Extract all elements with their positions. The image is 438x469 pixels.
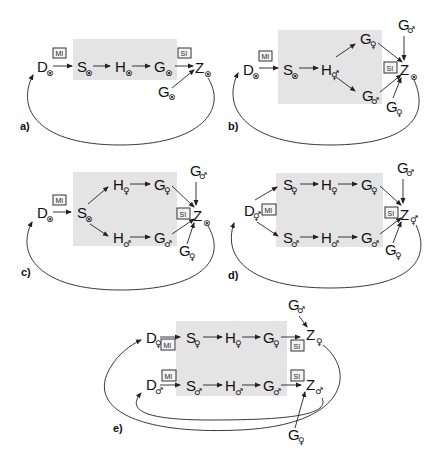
node-s-female-symbol: ♀ — [194, 339, 201, 349]
node-h-symbol: ⊗ — [125, 68, 133, 78]
node-s-female-symbol: ♀ — [291, 186, 298, 196]
node-d-male-symbol: ♂ — [155, 386, 163, 396]
syngamy-tag-label: SI — [387, 65, 394, 72]
node-z-symbol: ⊗ — [203, 218, 211, 228]
node-z-male: Z — [306, 376, 315, 393]
node-z: Z — [400, 61, 409, 78]
panel-b: D ⊗ MI S ⊗ H ⚥ G ♀ G ♂ SI Z ⊗ G ♂ G ♀ b) — [228, 16, 419, 145]
edge-d-sm — [257, 222, 278, 236]
syngamy-tag-label: SI — [388, 210, 395, 217]
panel-d: D ⚥ MI S ♀ H ♀ G ♀ S ♂ H ♂ G ♂ SI Z ⚥ G … — [228, 159, 421, 288]
node-g-external-male-symbol: ♂ — [406, 168, 414, 178]
node-z-symbol: ⊗ — [204, 69, 212, 79]
syngamy-tag-female-label: SI — [294, 343, 301, 350]
node-s-symbol: ⊗ — [85, 214, 93, 224]
node-z-symbol: ⚥ — [410, 215, 418, 226]
node-d-symbol: ⚥ — [253, 211, 261, 222]
meiosis-tag-male-label: MI — [165, 373, 173, 380]
node-h-female-symbol: ♀ — [235, 339, 242, 349]
node-g-external-male-symbol: ♂ — [199, 171, 207, 181]
node-h-symbol: ⚥ — [331, 70, 339, 81]
node-g-male-symbol: ♂ — [371, 96, 379, 106]
node-d-symbol: ⊗ — [252, 71, 260, 81]
node-g-external-male-symbol: ♂ — [407, 25, 415, 35]
panel-e: D ♀ MI S ♀ H ♀ G ♀ SI Z ♀ G ♂ D ♂ MI S ♂… — [104, 296, 340, 446]
meiosis-tag-label: MI — [56, 197, 64, 204]
meiosis-tag-label: MI — [56, 50, 64, 57]
cycle-arrow-male — [136, 393, 323, 420]
edge-gm-z — [380, 218, 401, 234]
node-g-external-male-symbol: ♂ — [297, 305, 305, 315]
panel-label-b: b) — [228, 120, 239, 132]
node-h-female-symbol: ♀ — [331, 186, 338, 196]
node-z: Z — [400, 206, 409, 223]
node-g-female-symbol: ♀ — [273, 339, 280, 349]
node-s-male-symbol: ♂ — [194, 387, 202, 397]
node-g: G — [154, 58, 166, 75]
node-z: Z — [195, 59, 204, 76]
life-cycle-diagram: D ⊗ MI S ⊗ H ⊗ G ⊗ SI Z ⊗ G ⊗ a) D ⊗ MI … — [0, 0, 438, 469]
edge-gextf-zm — [295, 392, 305, 428]
edge-d-sf — [255, 187, 277, 200]
node-g-male-symbol: ♂ — [371, 239, 379, 249]
node-g-symbol: ⊗ — [165, 68, 173, 78]
node-g-external-female-symbol: ♀ — [189, 252, 196, 262]
meiosis-tag-label: MI — [262, 53, 270, 60]
panel-a: D ⊗ MI S ⊗ H ⊗ G ⊗ SI Z ⊗ G ⊗ a) — [20, 39, 214, 145]
node-z: Z — [193, 207, 202, 224]
cycle-arrow — [27, 75, 214, 145]
meiosis-tag-label: MI — [265, 207, 273, 214]
syngamy-tag-male-label: SI — [294, 373, 301, 380]
node-s-symbol: ⊗ — [291, 71, 299, 81]
panel-c: D ⊗ MI S ⊗ H ♀ G ♀ H ♂ G ♂ SI Z ⊗ G ♂ G … — [21, 162, 214, 290]
node-z-male-symbol: ♂ — [315, 386, 323, 396]
node-g-external-female-symbol: ♀ — [395, 251, 402, 261]
node-h-male-symbol: ♂ — [123, 239, 131, 249]
node-h-male-symbol: ♂ — [331, 239, 339, 249]
node-d-symbol: ⊗ — [46, 214, 54, 224]
node-g-female-symbol: ♀ — [371, 186, 378, 196]
node-g-external-female-symbol: ♀ — [396, 108, 403, 118]
panel-label-c: c) — [21, 266, 31, 278]
panel-label-d: d) — [228, 269, 239, 281]
edge-gextf-z — [393, 222, 401, 243]
node-g-male-symbol: ♂ — [164, 239, 172, 249]
node-h-male-symbol: ♂ — [235, 387, 243, 397]
node-s-male-symbol: ♂ — [291, 239, 299, 249]
node-g-female-symbol: ♀ — [370, 40, 377, 50]
node-g-male-symbol: ♂ — [273, 387, 281, 397]
meiosis-tag-female-label: MI — [164, 342, 172, 349]
node-z-female: Z — [306, 326, 315, 343]
edge-gextm-zf — [299, 316, 307, 327]
edge-gextf-z — [187, 223, 194, 244]
node-g-female-symbol: ♀ — [164, 186, 171, 196]
node-d-symbol: ⊗ — [46, 68, 54, 78]
node-h-female-symbol: ♀ — [123, 186, 130, 196]
panel-label-e: e) — [113, 422, 123, 434]
node-g-external-symbol: ⊗ — [168, 92, 176, 102]
syngamy-tag-label: SI — [181, 50, 188, 57]
node-z-female-symbol: ♀ — [316, 337, 323, 347]
node-g-external-female-symbol: ♀ — [298, 436, 305, 446]
syngamy-tag-label: SI — [180, 211, 187, 218]
edge-gm-z — [380, 75, 401, 92]
edge-gf-z — [380, 186, 401, 205]
node-s-symbol: ⊗ — [85, 68, 93, 78]
panel-label-a: a) — [20, 120, 30, 132]
